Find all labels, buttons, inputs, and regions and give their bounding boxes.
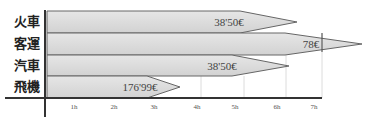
label-car: 汽車 <box>14 58 40 73</box>
label-train: 火車 <box>14 14 40 29</box>
bars <box>47 11 362 98</box>
bar-car <box>47 55 289 76</box>
travel-time-chart: 38'50€ 78€ 38'50€ 176'99€ 火車 客運 汽車 飛機 1h… <box>0 0 369 129</box>
tick-1h: 1h <box>71 103 79 111</box>
tick-6h: 6h <box>274 103 282 111</box>
label-coach: 客運 <box>14 36 40 51</box>
tick-5h: 5h <box>232 103 240 111</box>
x-tick-labels: 1h 2h 3h 4h 5h 6h 7h <box>71 103 319 111</box>
tick-4h: 4h <box>194 103 202 111</box>
label-plane: 飛機 <box>13 79 40 94</box>
value-coach: 78€ <box>303 38 320 50</box>
value-train: 38'50€ <box>214 16 244 28</box>
tick-2h: 2h <box>111 103 119 111</box>
bar-plane <box>47 76 180 98</box>
category-labels: 火車 客運 汽車 飛機 <box>13 14 40 94</box>
value-plane: 176'99€ <box>123 81 158 93</box>
value-car: 38'50€ <box>207 60 237 72</box>
tick-3h: 3h <box>151 103 159 111</box>
tick-7h: 7h <box>311 103 319 111</box>
bar-train <box>47 11 297 33</box>
